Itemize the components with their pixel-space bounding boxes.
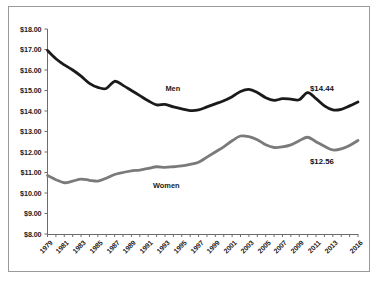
women-series-label: Women: [153, 181, 180, 190]
y-axis-tick-label: $17.00: [0, 45, 42, 54]
chart-screenshot: $18.00$17.00$16.00$15.00$14.00$13.00$12.…: [0, 0, 389, 286]
y-axis-tick-label: $18.00: [0, 25, 42, 34]
y-axis-tick-label: $12.00: [0, 148, 42, 157]
series-line-men: [48, 51, 359, 111]
women-end-value-label: $12.56: [310, 157, 334, 166]
y-axis-tick-label: $8.00: [0, 230, 42, 239]
y-axis-tick-label: $15.00: [0, 86, 42, 95]
y-axis-tick-label: $10.00: [0, 189, 42, 198]
line-chart: $18.00$17.00$16.00$15.00$14.00$13.00$12.…: [0, 0, 389, 286]
y-axis-tick-label: $13.00: [0, 127, 42, 136]
men-end-value-label: $14.44: [310, 84, 334, 93]
chart-axes: [48, 29, 359, 235]
y-axis-tick-label: $11.00: [0, 168, 42, 177]
men-series-label: Men: [165, 84, 180, 93]
y-axis-tick-label: $14.00: [0, 107, 42, 116]
y-axis-tick-label: $16.00: [0, 66, 42, 75]
y-axis-tick-label: $9.00: [0, 209, 42, 218]
